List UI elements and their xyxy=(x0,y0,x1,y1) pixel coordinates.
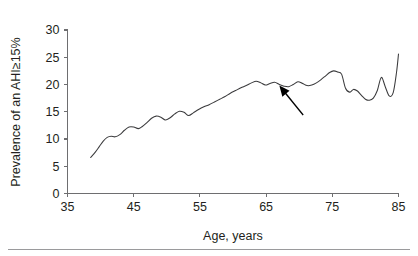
y-tick-label: 5 xyxy=(53,160,60,174)
x-tick-label: 45 xyxy=(127,200,141,214)
y-tick-label: 10 xyxy=(46,132,60,146)
figure-container: 051015202530 354555657585 Age, years Pre… xyxy=(0,0,418,256)
x-tick-label: 65 xyxy=(259,200,273,214)
y-axis-title: Prevalence of an AHI≥15% xyxy=(9,37,23,186)
x-tick-label: 55 xyxy=(193,200,207,214)
prevalence-vs-age-line-chart: 051015202530 354555657585 Age, years Pre… xyxy=(0,0,418,256)
x-tick-label: 85 xyxy=(392,200,406,214)
y-tick-label: 30 xyxy=(46,23,60,37)
x-axis-title: Age, years xyxy=(203,229,263,243)
y-tick-label: 25 xyxy=(46,51,60,65)
y-tick-label: 20 xyxy=(46,78,60,92)
y-tick-label: 0 xyxy=(53,187,60,201)
y-tick-label: 15 xyxy=(46,105,60,119)
x-tick-label: 35 xyxy=(61,200,75,214)
chart-background xyxy=(0,0,418,256)
x-tick-label: 75 xyxy=(325,200,339,214)
